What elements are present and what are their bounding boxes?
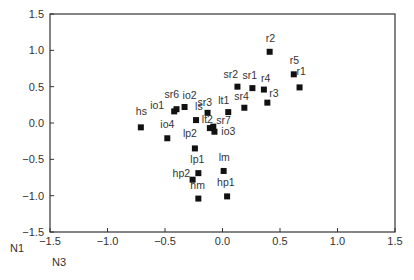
data-point-marker <box>195 170 201 176</box>
data-point-marker <box>164 135 170 141</box>
data-point-label: lp2 <box>183 127 197 139</box>
data-point-label: hm <box>190 179 205 191</box>
data-point-label: io4 <box>160 118 174 130</box>
data-point-label: r3 <box>269 87 278 99</box>
data-point-label: hp1 <box>217 176 235 188</box>
x-tick-label: 0.0 <box>215 235 230 247</box>
data-point-label: sr2 <box>223 68 238 80</box>
data-point-marker <box>249 85 255 91</box>
data-point-marker <box>182 104 188 110</box>
data-point-marker <box>221 168 227 174</box>
data-point-label: sr4 <box>234 90 249 102</box>
data-point-marker <box>211 129 217 135</box>
data-point-label: r2 <box>266 32 275 44</box>
y-tick-label: −1.5 <box>22 226 44 238</box>
data-point-label: io3 <box>221 125 235 137</box>
data-point-label: lt2 <box>202 113 213 125</box>
y-tick-label: 0.5 <box>29 81 44 93</box>
y-axis-label: N1 <box>10 242 24 254</box>
scatter-plot: −1.5−1.0−0.50.00.51.01.51.51.00.50.0−0.5… <box>0 0 414 280</box>
x-tick-label: 1.5 <box>387 235 402 247</box>
data-point-label: io1 <box>150 99 164 111</box>
data-point-label: ls <box>195 100 203 112</box>
y-tick-label: −0.5 <box>22 153 44 165</box>
data-point-marker <box>171 108 177 114</box>
data-point-marker <box>297 84 303 90</box>
data-point-label: sr6 <box>165 88 180 100</box>
data-point-marker <box>192 145 198 151</box>
x-tick-label: 1.0 <box>330 235 345 247</box>
data-point-label: lt1 <box>218 94 229 106</box>
data-point-marker <box>193 117 199 123</box>
data-points: r2r5r1sr2sr1r4r3sr4lt1sr7sr3io2sr6io1hsl… <box>136 32 306 202</box>
data-point-label: r1 <box>297 65 306 77</box>
data-point-marker <box>267 49 273 55</box>
data-point-label: lp1 <box>190 153 204 165</box>
data-point-label: r4 <box>261 72 270 84</box>
data-point-label: sr1 <box>242 69 257 81</box>
y-tick-label: 0.0 <box>29 117 44 129</box>
data-point-marker <box>261 87 267 93</box>
y-tick-label: −1.0 <box>22 190 44 202</box>
x-axis-label: N3 <box>52 256 66 268</box>
y-tick-label: 1.5 <box>29 8 44 20</box>
x-tick-label: −1.0 <box>97 235 119 247</box>
data-point-marker <box>195 196 201 202</box>
x-tick-label: −0.5 <box>154 235 176 247</box>
y-tick-label: 1.0 <box>29 44 44 56</box>
data-point-label: lm <box>219 151 230 163</box>
data-point-marker <box>241 105 247 111</box>
data-point-label: hs <box>136 105 147 117</box>
x-tick-label: 0.5 <box>272 235 287 247</box>
data-point-label: hp2 <box>173 167 191 179</box>
data-point-marker <box>138 124 144 130</box>
data-point-marker <box>264 100 270 106</box>
data-point-marker <box>224 193 230 199</box>
